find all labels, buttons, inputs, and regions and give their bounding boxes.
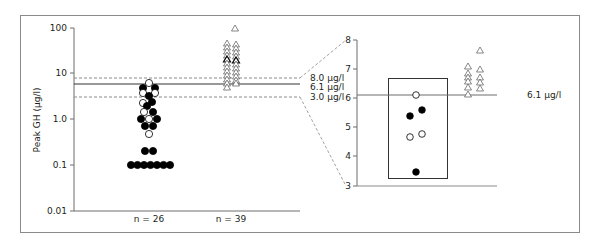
right-tick-8: 8: [345, 35, 351, 45]
ref-label-6.1: 6.1 µg/l: [310, 82, 344, 92]
right-tick-7: 7: [345, 64, 351, 74]
tick-0.01: 0.01: [47, 206, 67, 216]
right-circles: [407, 92, 426, 176]
right-tick-6: 6: [345, 93, 351, 103]
y-axis-label: Peak GH (µg/l): [32, 88, 42, 153]
right-tick-4: 4: [345, 151, 351, 161]
right-ref-label: 6.1 µg/l: [527, 90, 561, 100]
left-panel: 100 10 1.0 0.1 0.01 Peak GH (µg/l): [32, 23, 344, 224]
right-tick-3: 3: [345, 181, 351, 191]
tick-100: 100: [50, 23, 67, 33]
figure: 100 10 1.0 0.1 0.01 Peak GH (µg/l): [0, 0, 596, 245]
tick-0.1: 0.1: [53, 160, 67, 170]
right-tick-5: 5: [345, 122, 351, 132]
right-panel: 8 7 6 5 4 3 6.1 µg/l: [345, 35, 561, 191]
figure-frame: [21, 16, 580, 233]
group1-points: [127, 79, 173, 168]
right-triangles: [465, 47, 484, 97]
zoom-connector-bottom: [300, 97, 346, 186]
tick-10: 10: [56, 68, 68, 78]
ref-label-3: 3.0 µg/l: [310, 92, 344, 102]
n-label-group1: n = 26: [134, 214, 165, 224]
tick-1: 1.0: [53, 114, 68, 124]
group2-points: [224, 25, 240, 90]
n-label-group2: n = 39: [216, 214, 247, 224]
